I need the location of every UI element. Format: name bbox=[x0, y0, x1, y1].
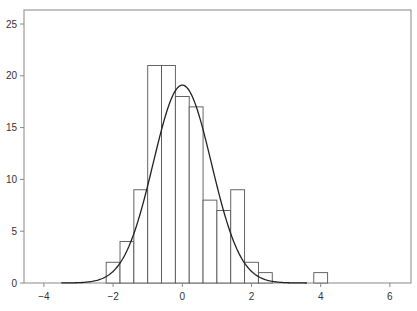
histogram-bar bbox=[217, 210, 231, 283]
histogram-bar bbox=[162, 65, 176, 283]
histogram-chart: 0510152025 −4−20246 bbox=[0, 0, 417, 311]
x-tick-label: 4 bbox=[318, 291, 324, 302]
histogram-bar bbox=[189, 107, 203, 283]
histogram-bar bbox=[203, 200, 217, 283]
x-tick-label: −2 bbox=[107, 291, 119, 302]
x-tick-label: 0 bbox=[180, 291, 186, 302]
y-axis: 0510152025 bbox=[6, 19, 24, 289]
histogram-bar bbox=[134, 190, 148, 283]
histogram-bar bbox=[120, 242, 134, 283]
y-tick-label: 0 bbox=[11, 278, 17, 289]
y-tick-label: 20 bbox=[6, 70, 18, 81]
y-tick-label: 15 bbox=[6, 122, 18, 133]
histogram-bar bbox=[314, 273, 328, 283]
y-tick-label: 10 bbox=[6, 174, 18, 185]
x-tick-label: −4 bbox=[38, 291, 50, 302]
y-tick-label: 25 bbox=[6, 19, 18, 30]
histogram-bars bbox=[106, 65, 327, 283]
x-axis: −4−20246 bbox=[38, 283, 393, 302]
histogram-bar bbox=[148, 65, 162, 283]
histogram-bar bbox=[175, 97, 189, 283]
histogram-bar bbox=[231, 190, 245, 283]
y-tick-label: 5 bbox=[11, 226, 17, 237]
x-tick-label: 6 bbox=[387, 291, 393, 302]
x-tick-label: 2 bbox=[249, 291, 255, 302]
